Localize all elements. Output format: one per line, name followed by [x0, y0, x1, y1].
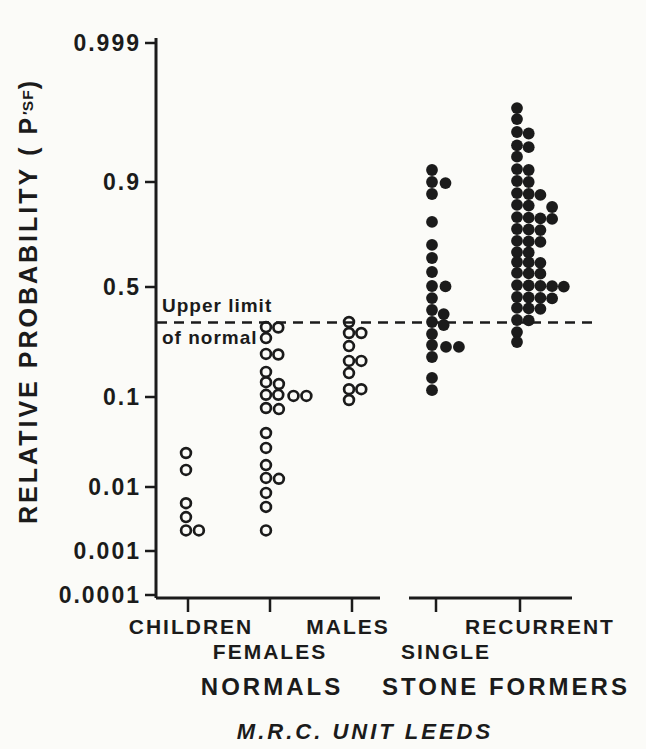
data-point-open	[356, 328, 366, 338]
data-point-open	[356, 356, 366, 366]
data-point-filled	[426, 316, 438, 328]
data-point-filled	[535, 189, 547, 201]
data-point-open	[261, 502, 271, 512]
data-point-open	[289, 391, 299, 401]
data-point-filled	[546, 201, 558, 213]
data-point-filled	[511, 235, 523, 247]
data-point-filled	[535, 257, 547, 269]
data-point-open	[273, 390, 283, 400]
data-point-open	[261, 377, 271, 387]
data-point-filled	[511, 139, 523, 151]
data-point-filled	[523, 302, 535, 314]
figure: 0.9990.90.50.10.010.0010.0001 RELATIVE P…	[0, 0, 646, 749]
data-point-filled	[511, 102, 523, 114]
data-point-open	[261, 526, 271, 536]
data-point-filled	[426, 328, 438, 340]
data-point-open	[273, 350, 283, 360]
data-point-filled	[426, 252, 438, 264]
upper-limit-annotation-line2: of normal	[162, 327, 258, 349]
data-point-filled	[546, 292, 558, 304]
data-point-filled	[523, 164, 535, 176]
data-point-open	[261, 349, 271, 359]
data-point-filled	[511, 314, 523, 326]
data-point-filled	[426, 384, 438, 396]
data-point-open	[261, 443, 271, 453]
data-point-filled	[535, 292, 547, 304]
data-point-filled	[438, 319, 450, 331]
data-point-open	[274, 404, 284, 414]
data-point-filled	[523, 212, 535, 224]
data-point-filled	[426, 292, 438, 304]
group-label-normals: NORMALS	[201, 673, 343, 701]
data-point-open	[344, 368, 354, 378]
data-point-filled	[523, 280, 535, 292]
data-point-open	[181, 526, 191, 536]
data-point-filled	[426, 266, 438, 278]
data-point-filled	[523, 188, 535, 200]
data-point-filled	[511, 175, 523, 187]
data-point-filled	[523, 292, 535, 304]
data-point-filled	[535, 224, 547, 236]
data-point-open	[261, 333, 271, 343]
data-point-filled	[535, 268, 547, 280]
data-point-open	[261, 460, 271, 470]
data-point-open	[261, 473, 271, 483]
data-point-open	[194, 526, 204, 536]
data-point-filled	[535, 236, 547, 248]
data-point-open	[344, 341, 354, 351]
data-point-open	[261, 428, 271, 438]
data-point-filled	[426, 280, 438, 292]
data-point-filled	[511, 187, 523, 199]
data-point-filled	[558, 281, 570, 293]
data-point-filled	[440, 281, 452, 293]
data-point-filled	[511, 211, 523, 223]
data-point-filled	[523, 224, 535, 236]
data-point-filled	[511, 302, 523, 314]
data-point-filled	[511, 113, 523, 125]
data-point-filled	[511, 151, 523, 163]
data-point-filled	[453, 341, 465, 353]
y-tick-label: 0.0001	[59, 582, 141, 608]
y-axis-title-text: RELATIVE PROBABILITY	[14, 166, 43, 524]
data-point-open	[261, 488, 271, 498]
data-point-open	[302, 391, 312, 401]
y-tick-label: 0.9	[103, 169, 141, 195]
x-label-females: FEMALES	[213, 640, 327, 664]
y-axis-symbol-open: ( P	[14, 115, 43, 156]
data-point-open	[273, 323, 283, 333]
group-label-stone-formers: STONE FORMERS	[382, 673, 630, 701]
y-tick-label: 0.1	[103, 384, 141, 410]
data-point-filled	[546, 213, 558, 225]
y-tick-label: 0.999	[73, 30, 141, 56]
data-point-open	[181, 512, 191, 522]
data-point-filled	[426, 339, 438, 351]
data-point-filled	[511, 291, 523, 303]
data-point-filled	[426, 239, 438, 251]
data-point-open	[181, 448, 191, 458]
data-point-filled	[426, 216, 438, 228]
data-point-open	[344, 384, 354, 394]
data-point-open	[274, 379, 284, 389]
data-point-filled	[523, 315, 535, 327]
data-point-filled	[523, 128, 535, 140]
data-point-filled	[426, 164, 438, 176]
data-point-filled	[426, 304, 438, 316]
data-point-filled	[438, 308, 450, 320]
y-tick-label: 0.5	[103, 274, 141, 300]
data-point-filled	[511, 256, 523, 268]
data-point-filled	[523, 236, 535, 248]
data-point-filled	[535, 303, 547, 315]
data-point-filled	[426, 188, 438, 200]
data-point-filled	[511, 163, 523, 175]
data-point-filled	[511, 223, 523, 235]
data-point-open	[261, 403, 271, 413]
x-label-males: MALES	[306, 615, 390, 639]
data-point-filled	[523, 176, 535, 188]
x-label-children: CHILDREN	[129, 615, 254, 639]
data-point-filled	[440, 341, 452, 353]
data-point-open	[181, 465, 191, 475]
x-label-recurrent: RECURRENT	[465, 615, 615, 639]
y-tick-label: 0.001	[73, 538, 141, 564]
data-point-filled	[511, 267, 523, 279]
data-point-filled	[535, 280, 547, 292]
